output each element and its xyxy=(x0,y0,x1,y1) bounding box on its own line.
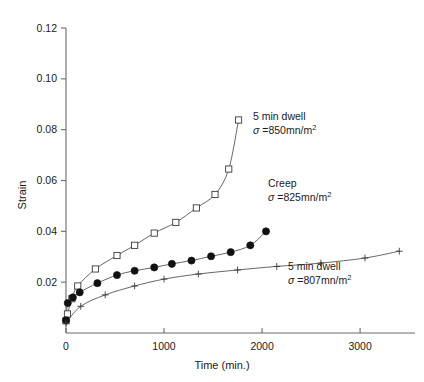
data-point-circle xyxy=(262,228,269,235)
annotation-dwell-807-value: =807mn/m xyxy=(294,274,347,286)
annotation-creep-825-value: =825mn/m xyxy=(274,191,327,203)
y-axis-title: Strain xyxy=(16,181,28,210)
data-point-circle xyxy=(94,280,101,287)
data-point-square xyxy=(151,230,157,236)
data-point-circle xyxy=(69,294,76,301)
annotation-creep-825-exponent: 2 xyxy=(327,190,331,199)
data-point-circle xyxy=(113,271,120,278)
data-point-circle xyxy=(151,264,158,271)
svg-text:σ =825mn/m2: σ =825mn/m2 xyxy=(268,190,331,203)
annotation-dwell-850-exponent: 2 xyxy=(312,123,316,132)
annotation-dwell-807-exponent: 2 xyxy=(347,273,351,282)
data-point-square xyxy=(92,266,98,272)
x-tick-label: 0 xyxy=(63,340,69,352)
data-point-square xyxy=(64,311,70,317)
x-tick-label: 1000 xyxy=(152,340,176,352)
data-point-square xyxy=(114,252,120,258)
y-tick-label: 0.06 xyxy=(37,174,58,186)
data-point-circle xyxy=(131,267,138,274)
data-point-square xyxy=(173,219,179,225)
data-point-circle xyxy=(227,249,234,256)
data-point-circle xyxy=(168,260,175,267)
annotation-dwell-850-value: =850mn/m xyxy=(259,124,312,136)
svg-text:5 min dwell: 5 min dwell xyxy=(288,260,341,272)
data-point-circle xyxy=(64,299,71,306)
svg-text:5 min dwell: 5 min dwell xyxy=(253,110,306,122)
y-tick-label: 0.08 xyxy=(37,123,58,135)
y-tick-label: 0.12 xyxy=(37,22,58,34)
y-tick-label: 0.10 xyxy=(37,72,58,84)
annotation-dwell-807-label: 5 min dwell xyxy=(288,260,341,272)
x-tick-label: 2000 xyxy=(250,340,274,352)
data-point-circle xyxy=(76,289,83,296)
strain-vs-time-chart: 0.020.040.060.080.100.12 Strain 01000200… xyxy=(0,0,424,382)
data-point-square xyxy=(226,166,232,172)
svg-text:Creep: Creep xyxy=(268,177,297,189)
data-point-square xyxy=(235,117,241,123)
svg-text:σ =850mn/m2: σ =850mn/m2 xyxy=(253,123,316,136)
y-tick-label: 0.04 xyxy=(37,225,58,237)
annotation-dwell-850-label: 5 min dwell xyxy=(253,110,306,122)
data-point-circle xyxy=(247,242,254,249)
data-point-circle xyxy=(207,253,214,260)
data-point-circle xyxy=(188,257,195,264)
x-tick-label: 3000 xyxy=(348,340,372,352)
data-point-square xyxy=(193,205,199,211)
svg-text:σ =807mn/m2: σ =807mn/m2 xyxy=(288,273,351,286)
data-point-square xyxy=(132,242,138,248)
annotation-creep-825-label: Creep xyxy=(268,177,297,189)
data-point-square xyxy=(75,283,81,289)
y-tick-label: 0.02 xyxy=(37,276,58,288)
data-point-square xyxy=(212,191,218,197)
x-axis-title: Time (min.) xyxy=(194,359,249,371)
